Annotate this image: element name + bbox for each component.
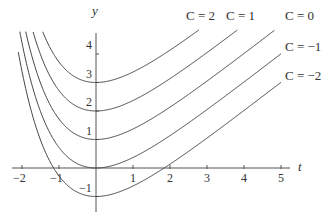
- y-tick-label: 4: [86, 39, 92, 51]
- curve-label: C = 0: [285, 9, 314, 22]
- x-tick-label: −2: [13, 172, 26, 184]
- x-tick-label: −1: [50, 172, 63, 184]
- solution-curve: [26, 30, 275, 139]
- x-tick-label: 1: [130, 172, 136, 184]
- y-tick-label: −1: [79, 182, 92, 194]
- x-tick-label: 4: [241, 172, 247, 184]
- axes: [12, 33, 290, 212]
- curve-label: C = 2: [186, 9, 215, 22]
- x-tick-label: 3: [204, 172, 210, 184]
- solution-curve: [20, 32, 281, 168]
- curve-label: C = −2: [285, 69, 321, 82]
- y-tick-label: 2: [86, 96, 92, 108]
- curve-label: C = 1: [226, 9, 255, 22]
- curve-label: C = −1: [285, 40, 321, 53]
- x-tick-label: 2: [167, 172, 173, 184]
- x-tick-label: 5: [278, 172, 284, 184]
- y-axis-label: y: [92, 4, 98, 17]
- y-tick-label: 1: [86, 125, 92, 137]
- y-tick-label: 3: [86, 68, 92, 80]
- x-axis-label: t: [298, 160, 302, 173]
